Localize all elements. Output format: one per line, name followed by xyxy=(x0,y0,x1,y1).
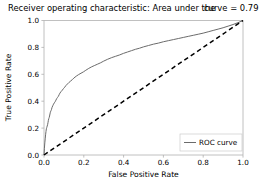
x-tick-label: 0.2 xyxy=(78,158,89,167)
x-tick-label: 1.0 xyxy=(237,158,249,167)
chart-title-auc: curve = 0.79 xyxy=(204,3,258,13)
x-axis-title: False Positive Rate xyxy=(108,170,179,179)
chart-legend: ROC curve xyxy=(180,134,242,151)
chart-title-main: Receiver operating characteristic: Area … xyxy=(8,3,215,13)
legend-label-roc-curve: ROC curve xyxy=(199,138,238,147)
y-axis-title: True Positive Rate xyxy=(4,53,13,122)
y-tick-label: 0.8 xyxy=(28,43,40,52)
y-tick-label: 0.6 xyxy=(28,70,40,79)
chart-canvas: 0.00.20.40.60.81.0 0.00.20.40.60.81.0 Re… xyxy=(0,0,270,183)
x-tick-label: 0.8 xyxy=(197,158,209,167)
y-tick-label: 0.4 xyxy=(28,97,40,106)
y-tick-label: 0.0 xyxy=(28,151,40,160)
y-tick-label: 0.2 xyxy=(28,124,39,133)
figure-background xyxy=(0,0,270,183)
y-tick-label: 1.0 xyxy=(28,16,40,25)
x-tick-label: 0.6 xyxy=(158,158,170,167)
roc-chart-figure: 0.00.20.40.60.81.0 0.00.20.40.60.81.0 Re… xyxy=(0,0,270,183)
x-tick-label: 0.0 xyxy=(38,158,50,167)
x-tick-label: 0.4 xyxy=(118,158,130,167)
